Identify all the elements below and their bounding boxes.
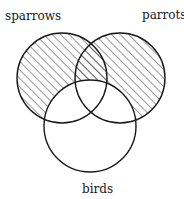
venn-diagram xyxy=(0,0,184,199)
label-parrots: parrots xyxy=(142,9,184,21)
label-sparrows: sparrows xyxy=(5,10,61,22)
label-birds: birds xyxy=(82,183,113,195)
